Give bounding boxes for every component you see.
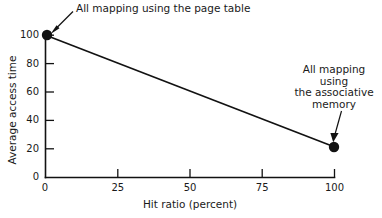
annotation-associative-line-3: the associative (288, 87, 380, 99)
leader-arrow-page-table (51, 12, 73, 35)
x-tick-label-25: 25 (111, 183, 124, 193)
x-tick-label-50: 50 (184, 183, 197, 193)
annotation-associative-line-4: memory (288, 99, 380, 111)
y-axis-ticks (46, 35, 55, 149)
x-axis-ticks (118, 169, 335, 178)
x-tick-label-75: 75 (256, 183, 269, 193)
x-axis-label: Hit ratio (percent) (45, 198, 335, 210)
x-tick-label-100: 100 (325, 183, 344, 193)
y-axis-label: Average access time (6, 45, 18, 175)
leader-arrow-associative-memory (330, 111, 341, 142)
annotation-associative-memory: All mapping using the associative memory (288, 64, 380, 110)
data-point-page-table (42, 30, 52, 40)
data-point-associative-memory (329, 142, 339, 152)
annotation-page-table: All mapping using the page table (76, 2, 250, 14)
x-tick-label-0: 0 (42, 183, 48, 193)
figure-container: 100 80 60 40 20 0 0 25 50 75 100 Hit rat… (0, 0, 382, 218)
annotation-associative-line-1: All mapping (288, 64, 380, 76)
y-tick-label-100: 100 (14, 30, 39, 40)
